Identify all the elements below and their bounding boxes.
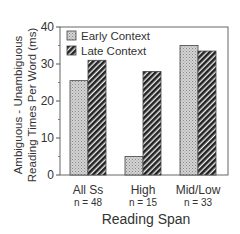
x-category-sublabel: n = 15 — [129, 197, 158, 208]
bar-late-context-mid-low — [198, 51, 216, 175]
y-axis-title-line: Ambiguous - Unambiguous — [12, 35, 24, 174]
bar-early-context-all-ss — [70, 81, 88, 175]
legend-swatch — [67, 31, 76, 40]
x-category-sublabel: n = 48 — [74, 197, 103, 208]
y-axis-label: Ambiguous - UnambiguousReading Times Per… — [12, 28, 38, 183]
bar-late-context-all-ss — [88, 60, 106, 175]
x-category-label: Mid/Low — [176, 183, 221, 197]
y-axis-title-line: Reading Times Per Word (ms) — [26, 28, 38, 183]
y-tick-label: 0 — [47, 168, 54, 182]
bar-early-context-high — [125, 157, 143, 176]
y-tick-label: 40 — [41, 20, 55, 34]
y-tick-label: 20 — [41, 94, 55, 108]
y-tick-label: 10 — [41, 131, 55, 145]
bar-early-context-mid-low — [180, 46, 198, 176]
legend-swatch — [67, 46, 76, 55]
x-category-label: High — [131, 183, 156, 197]
legend-label: Late Context — [81, 45, 147, 57]
y-tick-label: 30 — [41, 57, 55, 71]
x-axis: All Ssn = 48Highn = 15Mid/Lown = 33Readi… — [73, 183, 221, 227]
bar-late-context-high — [143, 71, 161, 175]
bar-chart: 010203040 All Ssn = 48Highn = 15Mid/Lown… — [0, 0, 240, 234]
x-category-label: All Ss — [73, 183, 104, 197]
y-axis: 010203040 — [41, 20, 60, 182]
legend-label: Early Context — [81, 30, 151, 42]
x-axis-title: Reading Span — [102, 211, 191, 227]
x-category-sublabel: n = 33 — [184, 197, 213, 208]
